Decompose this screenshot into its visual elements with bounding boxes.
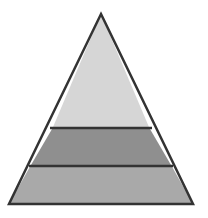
pyramid-level-bottom	[9, 166, 193, 204]
pyramid-level-top	[53, 14, 150, 128]
pyramid-diagram	[0, 0, 208, 218]
pyramid-level-middle	[30, 128, 171, 166]
